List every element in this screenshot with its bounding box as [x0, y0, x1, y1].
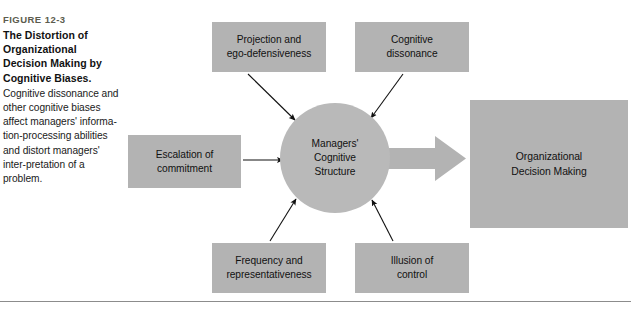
- arrow-dissonance-to-core: [371, 74, 403, 118]
- node-illusion-of-control[interactable]: Illusion of control: [355, 243, 469, 293]
- node-cognitive-dissonance[interactable]: Cognitive dissonance: [355, 22, 469, 72]
- node-label: Projection and ego-defensiveness: [227, 33, 312, 60]
- figure-title: The Distortion of Organizational Decisio…: [3, 28, 121, 85]
- node-organizational-decision-making[interactable]: Organizational Decision Making: [470, 100, 628, 228]
- node-label: Cognitive dissonance: [386, 33, 437, 60]
- figure-number: FIGURE 12-3: [3, 13, 121, 26]
- arrow-frequency-to-core: [270, 199, 296, 241]
- arrow-projection-to-core: [248, 74, 295, 120]
- node-escalation-of-commitment[interactable]: Escalation of commitment: [128, 135, 241, 188]
- figure-bottom-rule: [0, 301, 631, 302]
- node-managers-cognitive-structure[interactable]: Managers' Cognitive Structure: [280, 103, 390, 213]
- figure-root: FIGURE 12-3 The Distortion of Organizati…: [0, 0, 631, 312]
- node-label: Organizational Decision Making: [511, 149, 586, 179]
- figure-description: Cognitive dissonance and other cognitive…: [3, 87, 121, 186]
- block-arrow-to-outcome: [386, 136, 466, 181]
- arrow-illusion-to-core: [372, 200, 393, 241]
- node-projection-and-ego-defensiveness[interactable]: Projection and ego-defensiveness: [212, 22, 326, 72]
- node-label: Illusion of control: [391, 254, 434, 281]
- figure-caption: FIGURE 12-3 The Distortion of Organizati…: [3, 13, 121, 186]
- node-label: Frequency and representativeness: [226, 254, 311, 281]
- node-frequency-and-representativeness[interactable]: Frequency and representativeness: [212, 243, 326, 293]
- node-label: Managers' Cognitive Structure: [312, 137, 359, 179]
- node-label: Escalation of commitment: [156, 148, 214, 175]
